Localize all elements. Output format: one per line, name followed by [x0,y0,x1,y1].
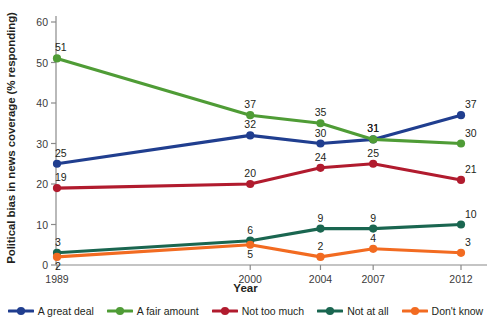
legend-item-not-at-all[interactable]: Not at all [317,305,388,317]
y-tick-label: 50 [36,57,48,69]
legend-marker-icon [107,305,133,317]
data-point [316,119,324,127]
data-point [369,245,377,253]
data-label: 31 [367,122,379,134]
data-point [246,111,254,119]
legend-marker-icon [402,305,428,317]
data-point [369,160,377,168]
data-point [457,249,465,257]
data-label: 9 [370,212,376,224]
data-label: 25 [55,147,67,159]
data-point [53,184,61,192]
x-axis-title: Year [0,282,491,294]
data-point [53,160,61,168]
series-line [57,245,461,257]
data-point [316,224,324,232]
data-point [457,220,465,228]
data-label: 35 [315,106,327,118]
data-label: 19 [55,171,67,183]
data-label: 37 [465,98,477,110]
data-label: 37 [244,98,256,110]
line-chart: Political bias in news coverage (% respo… [0,0,491,335]
y-tick-label: 20 [36,178,48,190]
series-line [57,164,461,188]
data-label: 51 [55,41,67,53]
chart-legend: A great dealA fair amountNot too muchNot… [0,305,491,317]
data-point [316,139,324,147]
data-label: 32 [244,118,256,130]
legend-label: Don't know [432,305,484,317]
legend-marker-icon [8,305,34,317]
data-point [457,176,465,184]
data-point [457,111,465,119]
data-point [316,164,324,172]
legend-label: Not too much [242,305,304,317]
y-tick-label: 0 [42,259,48,271]
y-tick-label: 30 [36,138,48,150]
data-label: 2 [318,240,324,252]
legend-label: Not at all [347,305,388,317]
data-label: 3 [465,236,471,248]
y-tick-label: 10 [36,219,48,231]
y-tick-label: 40 [36,97,48,109]
legend-item-don-t-know[interactable]: Don't know [402,305,484,317]
legend-item-a-great-deal[interactable]: A great deal [8,305,94,317]
data-label: 21 [465,163,477,175]
data-point [369,135,377,143]
data-point [246,131,254,139]
data-label: 20 [244,167,256,179]
plot-area: 0102030405060198920002004200720122532303… [0,0,491,300]
legend-item-a-fair-amount[interactable]: A fair amount [107,305,199,317]
data-point [53,54,61,62]
legend-label: A great deal [38,305,94,317]
data-point [457,139,465,147]
series-a-great-deal: 2532303137 [53,98,477,168]
legend-marker-icon [212,305,238,317]
data-label: 6 [247,224,253,236]
data-label: 25 [367,147,379,159]
y-tick-label: 60 [36,16,48,28]
data-label: 30 [465,127,477,139]
data-label: 9 [318,212,324,224]
series-a-fair-amount: 5137353130 [53,41,477,147]
legend-label: A fair amount [137,305,199,317]
data-label: 30 [315,127,327,139]
data-label: 10 [465,208,477,220]
data-label: 24 [315,151,327,163]
data-point [316,253,324,261]
data-point [246,180,254,188]
data-label: 2 [55,260,61,272]
data-label: 5 [247,248,253,260]
legend-item-not-too-much[interactable]: Not too much [212,305,304,317]
legend-marker-icon [317,305,343,317]
data-label: 3 [55,236,61,248]
data-label: 4 [370,232,376,244]
